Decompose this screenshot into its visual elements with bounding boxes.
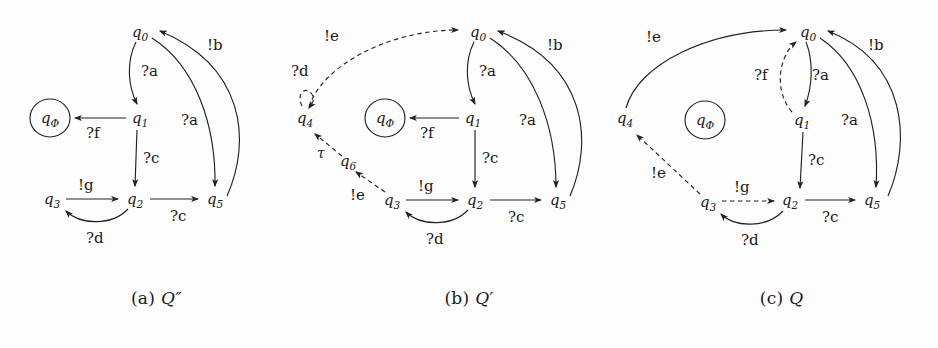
edge-label-c-q3-q2: !g: [734, 178, 750, 196]
node-b-q1: q1: [465, 109, 481, 129]
edge-b-q5-q0: [498, 31, 582, 196]
node-a-q1: q1: [132, 109, 148, 129]
node-a-q0: q0: [132, 23, 149, 43]
panel-a-diagram: q0 q1 qΦ q2 q3 q5 ?a ?f ?c !g ?d ?c: [30, 23, 239, 247]
node-c-q0: q0: [800, 23, 817, 43]
node-a-q3: q3: [44, 190, 61, 210]
edge-c-q1-q0: [780, 42, 796, 112]
edge-b-q2-q3: [406, 210, 468, 223]
node-c-q5: q5: [864, 191, 881, 211]
node-c-q2: q2: [782, 191, 799, 211]
edge-label-c-q2-q5: ?c: [822, 208, 838, 226]
node-b-q6: q6: [340, 152, 357, 172]
node-b-q3: q3: [384, 191, 401, 211]
edge-label-b-q0-q5: ?a: [519, 111, 536, 129]
figure-three-automata: q0 q1 qΦ q2 q3 q5 ?a ?f ?c !g ?d ?c: [0, 0, 938, 348]
node-c-q1: q1: [794, 111, 810, 131]
panel-c-diagram: q0 q1 qΦ q4 q2 q3 q5 ?a ?f ?c !g ?d: [617, 23, 900, 249]
automata-svg-canvas: q0 q1 qΦ q2 q3 q5 ?a ?f ?c !g ?d ?c: [0, 0, 938, 300]
node-c-qphi: qΦ: [696, 111, 715, 131]
edge-c-q3-q4: [637, 135, 700, 194]
edge-label-a-q0-q5: ?a: [181, 111, 198, 129]
caption-c-symbol: Q: [789, 288, 803, 308]
edge-label-a-q0-q1: ?a: [141, 62, 158, 80]
edge-label-b-q3-q6: !e: [350, 186, 365, 204]
edge-label-c-q3-q4: !e: [651, 164, 666, 182]
edge-a-q2-q3: [66, 209, 128, 222]
edge-label-c-q5-q0: !b: [868, 36, 884, 54]
edge-c-q2-q3: [721, 211, 783, 224]
edge-a-q1-q2: [135, 130, 137, 186]
edge-label-b-q2-q5: ?c: [508, 208, 524, 226]
caption-a: (a) Q″: [0, 288, 313, 332]
edge-label-b-q4-self-loop: ?d: [291, 62, 309, 80]
edge-label-c-q1-q2: ?c: [808, 151, 824, 169]
caption-c-index: (c): [760, 288, 784, 308]
edge-c-q0-q1: [805, 42, 811, 106]
panel-b-diagram: q0 q1 qΦ q4 q6 q2 q3 q5 ?a ?f ?c !g ?d: [291, 23, 582, 248]
edge-label-b-q0-q1: ?a: [479, 62, 496, 80]
edge-label-a-q5-q0: !b: [207, 36, 223, 54]
edge-label-c-q2-q3: ?d: [741, 231, 759, 249]
node-b-qphi: qΦ: [376, 109, 395, 129]
node-b-q4: q4: [297, 109, 313, 129]
edge-label-b-q1-qphi: ?f: [420, 124, 435, 142]
edge-label-a-q2-q3: ?d: [86, 229, 104, 247]
edge-a-q0-q1: [129, 42, 137, 104]
edge-c-q1-q2: [800, 132, 803, 188]
node-a-q2: q2: [127, 190, 144, 210]
edge-b-q4-self-loop: [300, 90, 313, 108]
caption-b-symbol: Q′: [475, 288, 493, 308]
edge-a-q5-q0: [160, 31, 239, 196]
edge-label-b-q2-q3: ?d: [426, 230, 444, 248]
node-c-q3: q3: [700, 193, 717, 213]
node-b-q2: q2: [467, 191, 484, 211]
node-a-q5: q5: [207, 190, 224, 210]
edge-label-b-q4-q0: !e: [324, 27, 339, 45]
edge-label-b-q6-q4: τ: [317, 145, 325, 161]
edge-c-q5-q0: [828, 31, 900, 196]
caption-b: (b) Q′: [313, 288, 626, 332]
caption-a-symbol: Q″: [161, 288, 182, 308]
caption-b-index: (b): [444, 288, 469, 308]
edge-label-b-q3-q2: !g: [418, 177, 434, 195]
edge-label-c-q0-q1: ?a: [812, 66, 829, 84]
node-b-q0: q0: [470, 23, 487, 43]
edge-label-c-q4-q0: !e: [646, 28, 661, 46]
caption-c: (c) Q: [625, 288, 938, 332]
edge-label-c-q1-q0: ?f: [754, 66, 769, 84]
edge-label-b-q1-q2: ?c: [482, 149, 498, 167]
edge-label-a-q1-qphi: ?f: [86, 124, 101, 142]
node-c-q4: q4: [617, 109, 633, 129]
edge-label-c-q0-q5: ?a: [841, 111, 858, 129]
edge-label-a-q3-q2: !g: [78, 176, 94, 194]
node-a-qphi: qΦ: [41, 109, 60, 129]
node-b-q5: q5: [550, 191, 567, 211]
caption-row: (a) Q″ (b) Q′ (c) Q: [0, 288, 938, 332]
caption-a-index: (a): [131, 288, 155, 308]
edge-label-a-q2-q5: ?c: [170, 207, 186, 225]
edge-b-q0-q1: [467, 42, 475, 104]
edge-label-a-q1-q2: ?c: [143, 149, 159, 167]
edge-label-b-q5-q0: !b: [547, 36, 563, 54]
